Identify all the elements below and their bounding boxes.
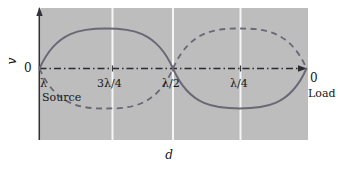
tick-label-lambda-over-2: λ/2: [162, 78, 180, 89]
source-label: Source: [42, 92, 81, 103]
gridlines: [40, 8, 241, 140]
x-axis-label: d: [0, 148, 338, 162]
load-label: Load: [308, 88, 336, 99]
load-zero-label: 0: [310, 72, 318, 84]
standing-wave-figure: v 0 0 λ 3λ/4 λ/2 λ/4 Source Load d: [0, 0, 338, 171]
y-axis-label: v: [5, 50, 19, 72]
tick-label-lambda: λ: [40, 78, 47, 89]
origin-zero-label: 0: [24, 62, 32, 74]
tick-label-lambda-over-4: λ/4: [230, 78, 248, 89]
tick-label-3lambda-over-4: 3λ/4: [97, 78, 122, 89]
y-axis-arrow-icon: [36, 7, 42, 16]
